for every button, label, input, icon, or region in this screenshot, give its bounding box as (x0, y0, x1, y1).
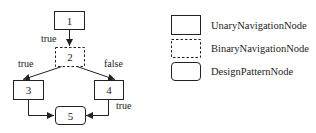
node-1-label: 1 (67, 15, 73, 27)
dashed-rect-swatch (172, 40, 201, 58)
edges (23, 29, 115, 116)
edge-label-4-5: true (116, 100, 132, 111)
rounded-rect-swatch (172, 63, 201, 81)
node-3: 3 (14, 81, 44, 100)
node-5: 5 (56, 107, 86, 125)
edge-label-2-3: true (18, 58, 34, 69)
legend-label-binary: BinaryNavigationNode (211, 43, 309, 54)
node-5-label: 5 (68, 110, 74, 122)
legend-label-unary: UnaryNavigationNode (211, 20, 307, 31)
edge-label-2-4: false (104, 58, 123, 69)
legend-item-unary: UnaryNavigationNode (172, 16, 307, 35)
legend-item-design-pattern: DesignPatternNode (172, 63, 294, 81)
node-4-label: 4 (106, 84, 112, 96)
node-4: 4 (95, 81, 124, 100)
edge-3-to-5 (29, 99, 55, 116)
legend-label-design-pattern: DesignPatternNode (211, 66, 294, 77)
solid-rect-swatch (172, 16, 201, 35)
node-1: 1 (55, 12, 85, 30)
flow-diagram: true true false true 1 2 3 4 5 UnaryNavi… (0, 0, 316, 133)
edge-4-to-5 (86, 99, 109, 116)
node-3-label: 3 (26, 84, 32, 96)
legend-item-binary: BinaryNavigationNode (172, 40, 310, 58)
node-2: 2 (56, 48, 85, 67)
node-2-label: 2 (67, 51, 73, 63)
edge-label-1-2: true (41, 33, 57, 44)
legend: UnaryNavigationNode BinaryNavigationNode… (172, 16, 310, 81)
